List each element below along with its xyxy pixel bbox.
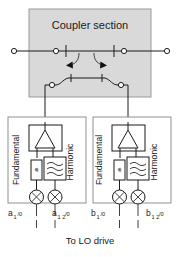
mixer-b1 (113, 190, 127, 228)
port-label-a12-base: a (52, 208, 57, 218)
port-label-b12-suffix: /0 (159, 211, 164, 217)
coupler-section: Coupler section (11, 9, 169, 122)
port-label-b1: b 1 /0 (91, 208, 105, 220)
port-label-a1: a 1 /0 (8, 208, 22, 220)
port-node-left-inner (53, 48, 58, 53)
port-label-b1-base: b (91, 208, 96, 218)
channel-b-harmonic-label: Harmonic (149, 143, 159, 180)
coupled-node-left (49, 82, 54, 87)
coupled-node-right (118, 82, 123, 87)
port-label-b1-sub: 1 (97, 214, 100, 220)
port-label-b12: b 1 2 /0 (146, 208, 164, 220)
port-node-left-outer (11, 48, 16, 53)
coupler-title: Coupler section (52, 19, 128, 31)
port-label-a1-base: a (8, 208, 13, 218)
port-label-b12-base: b (146, 208, 151, 218)
mixer-a1 (30, 190, 44, 228)
channel-a-fundamental-label: Fundamental (11, 135, 21, 185)
schematic-diagram: Coupler section (0, 0, 184, 257)
channel-b: Fundamental Harmonic dB (91, 117, 171, 228)
channel-b-fundamental-label: Fundamental (94, 135, 104, 185)
port-label-a1-sub: 1 (14, 214, 17, 220)
footer-caption: To LO drive (66, 235, 115, 246)
port-node-right-outer (164, 48, 169, 53)
port-label-a12: a 1 2 /0 (52, 208, 70, 220)
port-label-a12-suffix: /0 (65, 211, 70, 217)
port-label-a1-suffix: /0 (18, 211, 23, 217)
port-label-b1-suffix: /0 (101, 211, 106, 217)
port-node-right-inner (121, 48, 126, 53)
mixer-b12 (131, 190, 145, 228)
channel-a: Fundamental Harmonic dB (8, 117, 86, 228)
channel-b-attenuator-label: dB (117, 167, 122, 172)
channel-a-attenuator-label: dB (34, 167, 39, 172)
